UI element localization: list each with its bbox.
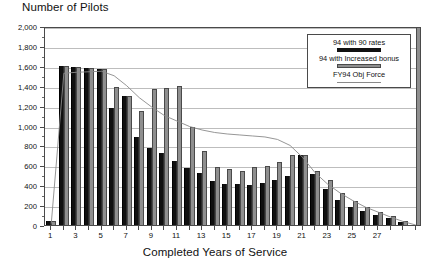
x-tick-mark: [163, 226, 164, 230]
x-tick-mark: [201, 226, 202, 230]
legend-item-2: FY94 Obj Force: [312, 70, 406, 83]
chart-legend: 94 with 90 rates 94 with Increased bonus…: [307, 34, 411, 88]
x-tick-mark: [352, 226, 353, 230]
x-tick-mark: [151, 226, 152, 230]
y-tick-label: 0: [33, 222, 37, 231]
x-tick-mark: [226, 226, 227, 230]
x-tick-mark: [327, 226, 328, 230]
bar-light: [416, 27, 421, 225]
x-tick-label: 15: [222, 231, 231, 240]
y-tick-label: 1,600: [18, 62, 37, 71]
x-tick-mark: [251, 226, 252, 230]
bar-light: [152, 89, 157, 225]
legend-label-2: FY94 Obj Force: [312, 70, 406, 79]
x-tick-mark: [75, 226, 76, 230]
bar-light: [202, 151, 207, 225]
bar-light: [378, 212, 383, 225]
bar-light: [365, 207, 370, 225]
x-tick-label: 9: [149, 231, 153, 240]
x-tick-label: 23: [322, 231, 331, 240]
x-tick-mark: [63, 226, 64, 230]
x-tick-mark: [364, 226, 365, 230]
bar-light: [76, 67, 81, 225]
legend-swatch-light-icon: [337, 64, 381, 68]
x-tick-mark: [314, 226, 315, 230]
x-tick-mark: [264, 226, 265, 230]
bar-light: [353, 201, 358, 225]
x-tick-mark: [415, 226, 416, 230]
legend-item-1: 94 with Increased bonus: [312, 54, 406, 68]
x-tick-label: 3: [73, 231, 77, 240]
x-tick-mark: [402, 226, 403, 230]
y-tick-label: 1,800: [18, 42, 37, 51]
legend-swatch-line-icon: [337, 82, 381, 83]
x-axis-title: Completed Years of Service: [0, 246, 430, 258]
chart-title: Number of Pilots: [22, 1, 109, 13]
legend-item-0: 94 with 90 rates: [312, 38, 406, 52]
bar-light: [315, 171, 320, 225]
legend-label-1: 94 with Increased bonus: [312, 54, 406, 63]
bar-light: [190, 127, 195, 226]
x-tick-mark: [138, 226, 139, 230]
bar-light: [303, 155, 308, 225]
x-tick-label: 13: [197, 231, 206, 240]
x-tick-mark: [289, 226, 290, 230]
bar-light: [265, 166, 270, 225]
chart-page: Number of Pilots 02004006008001,0001,200…: [0, 0, 430, 271]
y-tick-label: 600: [24, 162, 37, 171]
x-tick-label: 7: [124, 231, 128, 240]
x-tick-label: 17: [247, 231, 256, 240]
x-tick-mark: [50, 226, 51, 230]
x-tick-mark: [302, 226, 303, 230]
bar-light: [252, 167, 257, 225]
x-tick-mark: [377, 226, 378, 230]
bar-light: [164, 88, 169, 225]
bar-light: [240, 171, 245, 225]
x-tick-mark: [390, 226, 391, 230]
x-tick-mark: [113, 226, 114, 230]
bar-light: [328, 180, 333, 225]
x-tick-mark: [126, 226, 127, 230]
y-axis: 02004006008001,0001,2001,4001,6001,8002,…: [0, 27, 44, 226]
x-tick-label: 1: [48, 231, 52, 240]
bar-light: [215, 167, 220, 225]
x-tick-mark: [176, 226, 177, 230]
x-tick-mark: [339, 226, 340, 230]
x-tick-mark: [101, 226, 102, 230]
x-tick-mark: [276, 226, 277, 230]
bar-light: [277, 162, 282, 225]
x-tick-mark: [189, 226, 190, 230]
bar-light: [340, 193, 345, 225]
legend-label-0: 94 with 90 rates: [312, 38, 406, 47]
x-tick-label: 21: [297, 231, 306, 240]
x-tick-label: 5: [98, 231, 102, 240]
x-axis: 13579111315171921232527: [44, 226, 421, 246]
y-tick-label: 1,200: [18, 102, 37, 111]
bar-light: [64, 66, 69, 225]
bar-light: [114, 87, 119, 225]
y-tick-label: 1,400: [18, 82, 37, 91]
x-tick-label: 11: [172, 231, 180, 240]
bar-light: [89, 68, 94, 225]
x-tick-mark: [88, 226, 89, 230]
bar-light: [290, 155, 295, 225]
bar-light: [102, 69, 107, 225]
bar-light: [177, 86, 182, 225]
bar-light: [403, 221, 408, 225]
legend-swatch-dark-icon: [337, 48, 381, 52]
y-tick-label: 1,000: [18, 122, 37, 131]
bar-light: [227, 169, 232, 225]
y-tick-label: 800: [24, 142, 37, 151]
x-tick-label: 25: [348, 231, 357, 240]
bar-light: [139, 111, 144, 225]
bar-light: [51, 221, 56, 225]
y-tick-label: 200: [24, 202, 37, 211]
bar-light: [127, 96, 132, 225]
bar-light: [391, 216, 396, 225]
x-tick-mark: [214, 226, 215, 230]
y-tick-label: 2,000: [18, 23, 37, 32]
x-tick-label: 27: [373, 231, 382, 240]
x-tick-mark: [239, 226, 240, 230]
x-tick-label: 19: [272, 231, 281, 240]
y-tick-label: 400: [24, 182, 37, 191]
